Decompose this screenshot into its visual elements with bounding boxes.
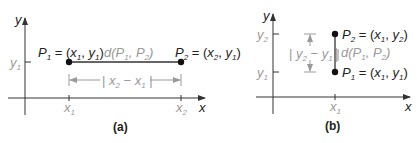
distance-formula-figure: y x y1 x1 x2 P1 = (x1, y1) d(P1, P2) P2 … <box>0 0 417 143</box>
x2-tick-label-a: x2 <box>175 100 188 117</box>
x-axis-label-a: x <box>198 100 206 115</box>
horizontal-distance-label-a: | x2 − x1 | <box>102 73 153 90</box>
figure-b: y x y2 y1 x1 P2 = (x1, y2) d(P1, P2) P1 … <box>256 8 412 133</box>
y-axis-label-a: y <box>14 12 23 27</box>
p1-label-b: P1 = (x1, y1) <box>342 65 408 82</box>
vertical-distance-label-b: | y2 − y1 | <box>289 46 340 63</box>
caption-a: (a) <box>113 120 128 134</box>
y-axis-label-b: y <box>262 8 271 23</box>
y1-tick-label-a: y1 <box>9 55 21 72</box>
p1-label-a: P1 = (x1, y1) <box>38 45 104 62</box>
p2-label-b: P2 = (x1, y2) <box>342 27 408 44</box>
x-axis-label-b: x <box>404 99 412 114</box>
x1-tick-label-b: x1 <box>329 99 341 116</box>
distance-label-a: d(P1, P2) <box>104 45 153 62</box>
distance-label-b: d(P1, P2) <box>341 45 390 62</box>
point-p2-b <box>332 31 338 37</box>
x1-tick-label-a: x1 <box>63 100 75 117</box>
figure-a: y x y1 x1 x2 P1 = (x1, y1) d(P1, P2) P2 … <box>8 12 241 134</box>
y1-tick-label-b: y1 <box>256 65 268 82</box>
caption-b: (b) <box>325 119 340 133</box>
y2-tick-label-b: y2 <box>256 27 269 44</box>
point-p1-b <box>332 69 338 75</box>
p2-label-a: P2 = (x2, y1) <box>175 45 241 62</box>
